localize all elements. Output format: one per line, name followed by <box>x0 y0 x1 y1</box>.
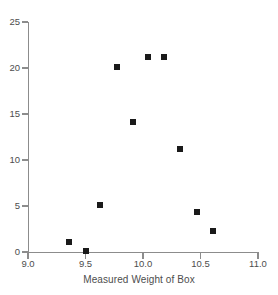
x-tick-label: 11.0 <box>238 259 278 269</box>
data-point <box>114 64 120 70</box>
data-point <box>97 202 103 208</box>
y-tick-mark <box>22 67 28 68</box>
data-point <box>145 54 151 60</box>
y-tick-label: 10 <box>0 155 20 165</box>
data-point <box>83 248 89 254</box>
y-tick-mark <box>22 205 28 206</box>
data-point <box>66 239 72 245</box>
y-axis-line <box>28 22 29 253</box>
y-tick-label: 15 <box>0 109 20 119</box>
x-tick-label: 10.0 <box>123 259 163 269</box>
x-tick-label: 9.5 <box>66 259 106 269</box>
data-point <box>161 54 167 60</box>
data-point <box>210 228 216 234</box>
x-tick-label: 9.0 <box>8 259 48 269</box>
x-axis-title: Measured Weight of Box <box>0 275 278 285</box>
x-tick-label: 10.5 <box>181 259 221 269</box>
y-tick-label: 25 <box>0 17 20 27</box>
data-point <box>194 209 200 215</box>
scatter-plot: 0510152025 9.09.510.010.511.0 Measured W… <box>0 0 278 295</box>
y-tick-mark <box>22 159 28 160</box>
y-tick-mark <box>22 21 28 22</box>
data-point <box>130 119 136 125</box>
y-tick-label: 0 <box>0 247 20 257</box>
y-tick-label: 20 <box>0 63 20 73</box>
data-point <box>177 146 183 152</box>
y-tick-label: 5 <box>0 201 20 211</box>
y-tick-mark <box>22 113 28 114</box>
